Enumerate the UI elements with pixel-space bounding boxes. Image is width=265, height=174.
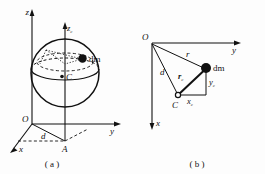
center-point-marker-panel-b: [175, 92, 180, 97]
label-d-panel-b: d: [160, 67, 165, 77]
label-axis-zc: zc: [66, 23, 72, 34]
panel-b-group: y x O r d rc xc yc: [142, 32, 241, 169]
axis-y-panel-b: [152, 41, 241, 46]
axis-y-panel-a: [32, 122, 121, 127]
label-r: r: [186, 49, 190, 59]
line-o-to-a: [32, 124, 65, 141]
label-offset-d-panel-a: d: [41, 131, 46, 141]
segment-d: [152, 44, 178, 95]
axis-x-panel-b: [150, 43, 155, 130]
caption-panel-a: ( a ): [45, 159, 60, 169]
center-point-marker: [60, 75, 64, 79]
label-comp-xc: xc: [186, 96, 193, 107]
label-center-c-panel-b: C: [172, 100, 179, 110]
segment-r: [152, 44, 206, 69]
label-center-c: C: [66, 72, 73, 82]
label-vector-rc: rc: [178, 71, 183, 82]
figure-svg: z zc dm: [0, 0, 265, 174]
label-comp-yc: yc: [208, 77, 215, 88]
cone-dotted-lines: [40, 50, 82, 64]
dm-point-marker: [78, 54, 86, 62]
label-axis-z: z: [25, 7, 30, 17]
label-origin-o-panel-a: O: [22, 114, 29, 124]
vector-rc: [178, 71, 204, 95]
label-axis-y-panel-a: y: [109, 126, 114, 136]
panel-a-group: z zc dm: [10, 7, 121, 169]
line-a-oblique-dashed: [65, 129, 88, 141]
label-axis-y-panel-b: y: [231, 45, 236, 55]
label-axis-x-panel-b: x: [155, 118, 160, 128]
label-dm-panel-b: dm: [213, 63, 225, 73]
label-axis-x-panel-a: x: [18, 144, 23, 154]
label-origin-o-panel-b: O: [142, 32, 149, 42]
dm-point-marker-panel-b: [201, 63, 211, 73]
label-point-a: A: [61, 144, 68, 154]
caption-panel-b: ( b ): [190, 159, 205, 169]
label-dm: dm: [89, 54, 101, 64]
figure-container: z zc dm: [0, 0, 265, 174]
